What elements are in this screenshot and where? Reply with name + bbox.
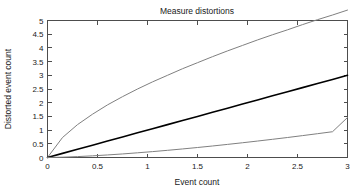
measure-distortions-chart: Measure distortions 00.511.522.53 00.511… [0,0,361,193]
y-tick-label: 1.5 [32,112,44,121]
y-tick-label: 3.5 [32,58,44,67]
y-tick-label: 4 [39,44,44,53]
y-tick-label: 2 [39,99,44,108]
x-axis-label: Event count [175,177,221,187]
y-tick-label: 0 [39,154,44,163]
chart-background [0,0,361,193]
y-tick-label: 2.5 [32,85,44,94]
x-tick-label: 2.5 [292,162,304,171]
y-tick-label: 0.5 [32,140,44,149]
x-tick-label: 3 [345,162,350,171]
y-axis-tick-labels: 00.511.522.533.544.55 [32,17,44,163]
x-tick-label: 0 [45,162,50,171]
figure-canvas: Measure distortions 00.511.522.53 00.511… [0,0,361,193]
y-tick-label: 4.5 [32,30,44,39]
chart-title: Measure distortions [160,6,234,16]
x-tick-label: 1.5 [192,162,204,171]
y-tick-label: 5 [39,17,44,26]
y-axis-label: Distorted event count [3,48,13,129]
x-tick-label: 2 [245,162,250,171]
y-tick-label: 3 [39,71,44,80]
x-tick-label: 0.5 [92,162,104,171]
y-tick-label: 1 [39,126,44,135]
x-tick-label: 1 [145,162,150,171]
